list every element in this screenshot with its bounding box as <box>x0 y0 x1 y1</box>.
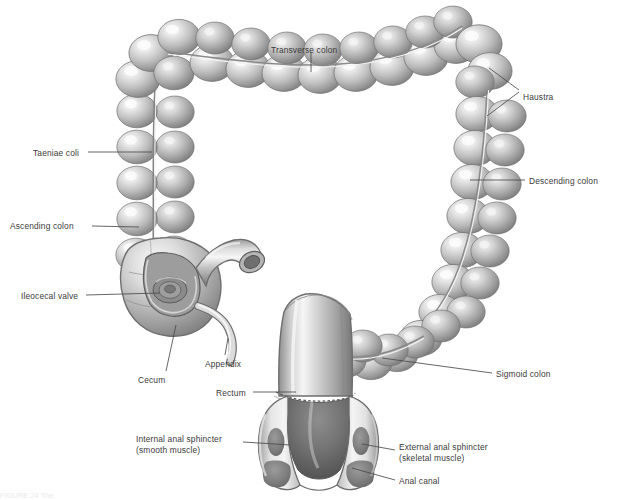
label-internal-anal-sphincter-line-2: (smooth muscle) <box>136 445 222 456</box>
figure-canvas: Transverse colonHaustraTaeniae coliDesce… <box>0 0 617 500</box>
external-anal-sphincter-muscle <box>263 461 291 488</box>
label-external-anal-sphincter-line-2: (skeletal muscle) <box>399 453 488 464</box>
external-anal-sphincter-muscle <box>346 461 374 488</box>
leader-appendix <box>225 338 228 355</box>
internal-anal-sphincter-muscle <box>268 428 285 456</box>
cecum-group <box>121 238 269 362</box>
figure-caption: FIGURE 24 The <box>0 491 54 500</box>
hepatic-flexure <box>116 19 200 97</box>
rectum-segment <box>274 294 355 406</box>
label-internal-anal-sphincter: Internal anal sphincter(smooth muscle) <box>136 434 222 455</box>
label-transverse-colon: Transverse colon <box>271 45 337 56</box>
label-ileocecal-valve: Ileocecal valve <box>21 291 78 302</box>
label-cecum: Cecum <box>138 375 165 386</box>
internal-anal-sphincter-muscle <box>353 427 370 455</box>
large-intestine-illustration <box>0 0 617 500</box>
label-taeniae-coli: Taeniae coli <box>33 148 79 159</box>
label-external-anal-sphincter-line-1: External anal sphincter <box>399 442 488 453</box>
label-internal-anal-sphincter-line-1: Internal anal sphincter <box>136 434 222 445</box>
descending-colon-segment <box>419 90 526 330</box>
anal-canal-cross-section <box>258 396 378 490</box>
label-descending-colon: Descending colon <box>529 176 598 187</box>
label-appendix: Appendix <box>205 359 241 370</box>
label-ascending-colon: Ascending colon <box>10 221 74 232</box>
label-anal-canal: Anal canal <box>399 476 440 487</box>
label-external-anal-sphincter: External anal sphincter(skeletal muscle) <box>399 442 488 463</box>
label-rectum: Rectum <box>216 388 246 399</box>
label-haustra: Haustra <box>523 92 553 103</box>
label-sigmoid-colon: Sigmoid colon <box>496 369 551 380</box>
